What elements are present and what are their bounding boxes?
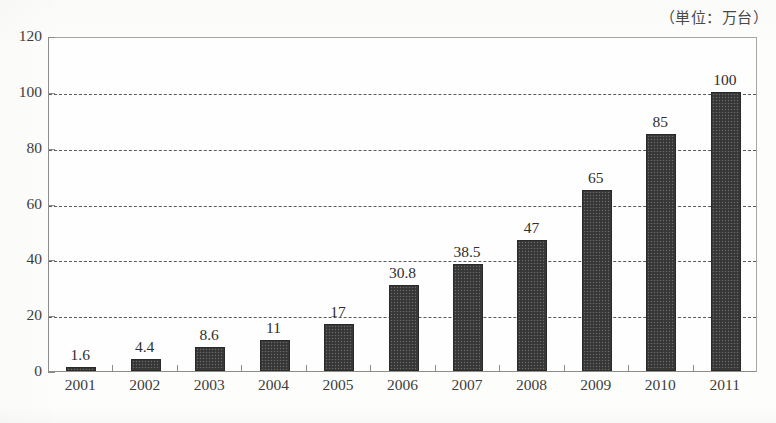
y-tick-mark bbox=[48, 37, 55, 38]
bar-value-label: 1.6 bbox=[50, 346, 110, 364]
bar bbox=[195, 347, 225, 371]
y-tick-label: 0 bbox=[0, 362, 42, 380]
bar-value-label: 17 bbox=[308, 303, 368, 321]
bar bbox=[324, 324, 354, 371]
bar-value-label: 4.4 bbox=[115, 338, 175, 356]
y-tick-label: 60 bbox=[0, 195, 42, 213]
x-tick-label: 2007 bbox=[435, 376, 499, 394]
x-tick-mark bbox=[112, 365, 113, 372]
x-tick-mark bbox=[241, 365, 242, 372]
y-tick-mark bbox=[48, 205, 55, 206]
bar bbox=[582, 190, 612, 371]
bar-value-label: 100 bbox=[695, 71, 755, 89]
y-tick-mark bbox=[48, 93, 55, 94]
bar bbox=[131, 359, 161, 371]
plot-area bbox=[48, 37, 757, 372]
bar bbox=[517, 240, 547, 371]
x-tick-mark bbox=[435, 365, 436, 372]
bar bbox=[453, 264, 483, 371]
y-tick-label: 40 bbox=[0, 250, 42, 268]
x-tick-label: 2002 bbox=[112, 376, 176, 394]
x-tick-mark bbox=[306, 365, 307, 372]
x-tick-label: 2003 bbox=[177, 376, 241, 394]
x-tick-mark bbox=[693, 365, 694, 372]
bar bbox=[646, 134, 676, 371]
x-tick-label: 2004 bbox=[241, 376, 305, 394]
x-tick-mark bbox=[177, 365, 178, 372]
gridline bbox=[49, 94, 756, 95]
bar bbox=[711, 92, 741, 371]
scan-smudge bbox=[0, 407, 776, 423]
y-tick-mark bbox=[48, 149, 55, 150]
y-tick-label: 80 bbox=[0, 139, 42, 157]
y-tick-label: 120 bbox=[0, 27, 42, 45]
bar bbox=[389, 285, 419, 371]
bar-value-label: 47 bbox=[501, 219, 561, 237]
y-tick-mark bbox=[48, 260, 55, 261]
bar-value-label: 38.5 bbox=[437, 243, 497, 261]
x-tick-label: 2009 bbox=[564, 376, 628, 394]
bar-chart: （単位：万台） 020406080100120 2001200220032004… bbox=[0, 0, 776, 423]
bar bbox=[66, 367, 96, 371]
x-tick-label: 2006 bbox=[370, 376, 434, 394]
x-tick-label: 2010 bbox=[628, 376, 692, 394]
x-tick-label: 2008 bbox=[499, 376, 563, 394]
x-axis: 2001200220032004200520062007200820092010… bbox=[48, 376, 757, 402]
x-tick-mark bbox=[499, 365, 500, 372]
y-tick-mark bbox=[48, 372, 55, 373]
x-tick-label: 2011 bbox=[693, 376, 757, 394]
x-tick-mark bbox=[564, 365, 565, 372]
x-tick-label: 2001 bbox=[48, 376, 112, 394]
y-axis: 020406080100120 bbox=[0, 0, 44, 423]
x-tick-mark bbox=[370, 365, 371, 372]
bar-value-label: 8.6 bbox=[179, 326, 239, 344]
bar bbox=[260, 340, 290, 371]
bar-value-label: 85 bbox=[630, 113, 690, 131]
bar-value-label: 11 bbox=[244, 319, 304, 337]
x-tick-mark bbox=[628, 365, 629, 372]
y-tick-mark bbox=[48, 316, 55, 317]
bar-value-label: 30.8 bbox=[373, 264, 433, 282]
y-tick-label: 20 bbox=[0, 306, 42, 324]
unit-annotation: （単位：万台） bbox=[660, 6, 769, 27]
y-tick-label: 100 bbox=[0, 83, 42, 101]
x-tick-label: 2005 bbox=[306, 376, 370, 394]
bar-value-label: 65 bbox=[566, 169, 626, 187]
